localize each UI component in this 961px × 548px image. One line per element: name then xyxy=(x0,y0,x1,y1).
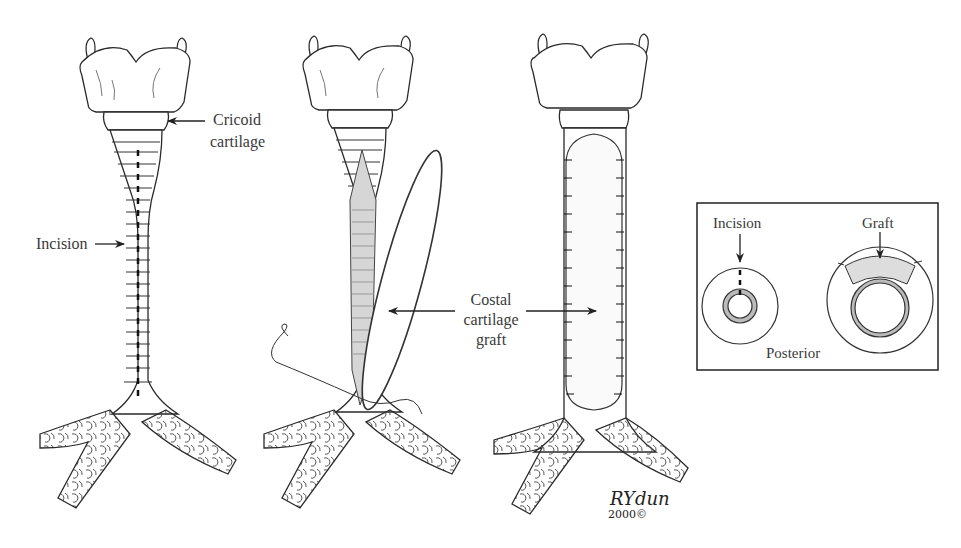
inset-incision-label: Incision xyxy=(713,214,761,233)
cricoid-cartilage xyxy=(559,110,628,128)
inset-posterior-label: Posterior xyxy=(766,344,820,363)
left-bronchus xyxy=(494,418,584,514)
costal-label-line3: graft xyxy=(456,330,526,349)
right-bronchus xyxy=(142,410,236,474)
signature-year: 2000© xyxy=(608,508,647,521)
cricoid-label-line1: Cricoid xyxy=(213,110,261,129)
right-bronchus xyxy=(366,410,460,474)
panel-3-graft-sutured xyxy=(494,34,688,514)
cricoid-cartilage xyxy=(104,112,169,130)
costal-label-line2: cartilage xyxy=(456,310,526,329)
thyroid-cartilage xyxy=(80,48,190,112)
inset-graft-label: Graft xyxy=(862,214,894,233)
trachea-reconstruction-figure: Cricoid cartilage Incision Costal cartil… xyxy=(0,0,961,548)
panel-2-graft-placement xyxy=(264,36,460,508)
cricoid-cartilage xyxy=(328,110,393,128)
incision-label: Incision xyxy=(36,234,88,253)
thyroid-cartilage xyxy=(303,46,413,110)
cricoid-label-line2: cartilage xyxy=(210,132,265,151)
left-bronchus xyxy=(264,410,354,508)
illustration-canvas xyxy=(0,0,961,548)
sutured-costal-cartilage-graft xyxy=(566,134,622,410)
artist-signature: RYdun xyxy=(610,488,670,509)
costal-label-line1: Costal xyxy=(456,290,526,309)
thyroid-cartilage xyxy=(531,44,647,108)
left-bronchus xyxy=(40,410,130,508)
panel-1-trachea-with-incision xyxy=(40,38,236,508)
